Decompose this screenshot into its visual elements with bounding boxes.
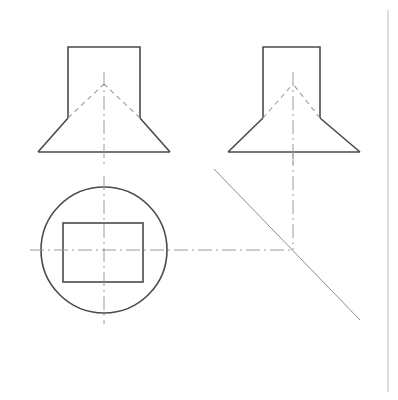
side-view-hidden-edge-right <box>293 84 320 118</box>
front-view-hidden-edge-right <box>104 84 140 118</box>
front-view-hidden-edge-left <box>68 84 104 118</box>
front-view-group <box>38 47 170 168</box>
side-view-hidden-edge-left <box>263 84 293 118</box>
orthographic-projection-drawing <box>0 0 398 400</box>
forty-five-degree-miter-line <box>214 169 360 320</box>
side-view-cone-outline <box>228 118 360 152</box>
construction-group <box>214 152 360 320</box>
top-view-group <box>30 176 293 324</box>
top-view-square <box>63 223 143 282</box>
side-view-group <box>228 47 360 168</box>
technical-drawing-canvas <box>0 0 398 400</box>
